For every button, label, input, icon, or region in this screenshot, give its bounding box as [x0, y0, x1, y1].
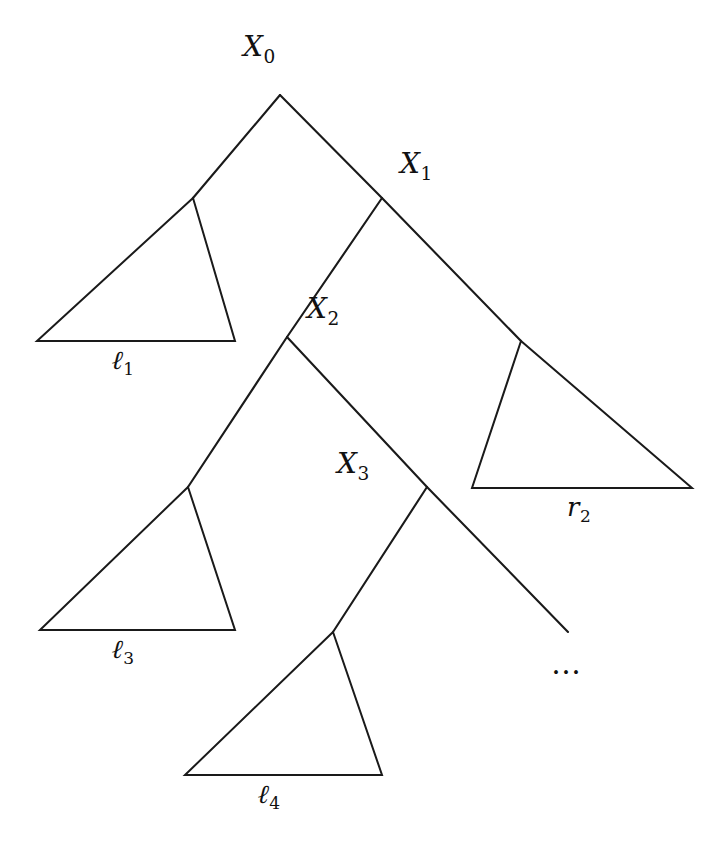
- subtree-triangle-r2: [472, 341, 692, 488]
- node-label-X2-subscript: 2: [327, 308, 339, 329]
- subtree-label-l4-subscript: 4: [269, 793, 280, 813]
- subtree-label-l4: ℓ4: [258, 781, 280, 807]
- subtree-edges-group: [188, 95, 521, 632]
- node-label-X2-base: X: [307, 292, 327, 325]
- node-label-X0-subscript: 0: [263, 46, 275, 67]
- dangling-edge: [427, 487, 568, 632]
- tree-diagram-svg: [0, 0, 727, 857]
- subtree-label-l3: ℓ3: [112, 636, 134, 662]
- node-label-X1: X1: [400, 150, 432, 178]
- subtree-edge-X3-to-l4: [333, 487, 427, 632]
- node-label-X0: X0: [243, 33, 275, 61]
- subtree-label-l3-base: ℓ: [111, 636, 124, 662]
- subtree-edge-X0-to-l1: [193, 95, 280, 198]
- subtree-triangle-l3: [40, 487, 235, 630]
- subtree-label-r2-base: r: [567, 492, 579, 522]
- node-label-X1-subscript: 1: [420, 163, 432, 184]
- continuation-ellipsis: …: [551, 646, 586, 681]
- node-label-X0-base: X: [243, 30, 263, 63]
- node-label-X1-base: X: [400, 147, 420, 180]
- spine-edge-X0-X1: [280, 95, 382, 198]
- tree-diagram-canvas: X0X1X2X3ℓ1r2ℓ3ℓ4…: [0, 0, 727, 857]
- triangles-group: [37, 198, 692, 775]
- subtree-triangle-l1: [37, 198, 235, 341]
- dangling-edge-group: [427, 487, 568, 632]
- subtree-edge-X2-to-l3: [188, 337, 287, 487]
- node-label-X3-subscript: 3: [357, 463, 369, 484]
- subtree-label-l1: ℓ1: [112, 347, 134, 373]
- subtree-label-l1-subscript: 1: [123, 359, 134, 379]
- subtree-label-r2-subscript: 2: [580, 506, 591, 526]
- subtree-label-r2: r2: [567, 494, 590, 520]
- subtree-triangle-l4: [185, 632, 382, 775]
- subtree-label-l3-subscript: 3: [123, 648, 134, 668]
- node-label-X2: X2: [307, 295, 339, 323]
- subtree-label-l1-base: ℓ: [111, 347, 124, 373]
- subtree-edge-X1-to-r2: [382, 198, 521, 341]
- subtree-label-l4-base: ℓ: [257, 781, 270, 807]
- node-label-X3: X3: [337, 450, 369, 478]
- node-label-X3-base: X: [337, 447, 357, 480]
